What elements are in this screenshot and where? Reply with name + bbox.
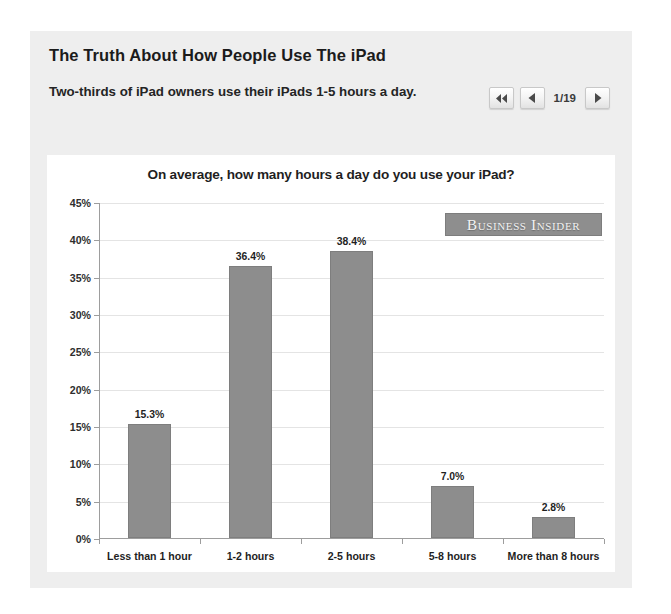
y-axis-tick <box>94 427 99 428</box>
bar <box>229 266 272 538</box>
article-subheadline: Two-thirds of iPad owners use their iPad… <box>49 83 449 101</box>
page-title: The Truth About How People Use The iPad <box>49 46 386 65</box>
y-axis-tick <box>94 464 99 465</box>
x-axis-category-label: 2-5 hours <box>328 550 376 562</box>
next-slide-button[interactable] <box>585 87 610 109</box>
y-axis-tick <box>94 278 99 279</box>
previous-slide-button[interactable] <box>520 87 545 109</box>
y-axis-label: 5% <box>76 496 91 508</box>
x-axis-category-label: 1-2 hours <box>227 550 275 562</box>
bar-chart-plot: 0%5%10%15%20%25%30%35%40%45%15.3%Less th… <box>99 203 604 539</box>
bar <box>128 424 171 538</box>
slideshow-panel: The Truth About How People Use The iPad … <box>30 31 632 588</box>
y-axis-label: 30% <box>70 309 91 321</box>
y-axis-label: 15% <box>70 421 91 433</box>
y-axis-label: 35% <box>70 272 91 284</box>
slideshow-pager: 1/19 <box>489 87 610 109</box>
y-axis-label: 0% <box>76 533 91 545</box>
y-gridline <box>100 203 604 204</box>
bar-value-label: 36.4% <box>236 251 265 262</box>
bar-value-label: 15.3% <box>135 409 164 420</box>
x-axis-category-label: Less than 1 hour <box>107 550 192 562</box>
first-slide-button[interactable] <box>489 87 514 109</box>
chevron-right-icon <box>594 93 602 103</box>
bar-value-label: 2.8% <box>542 502 566 513</box>
bar-value-label: 38.4% <box>337 236 366 247</box>
x-axis-category-label: 5-8 hours <box>429 550 477 562</box>
bar-value-label: 7.0% <box>441 471 465 482</box>
x-axis-tick <box>301 539 302 544</box>
y-axis-tick <box>94 352 99 353</box>
y-axis-label: 45% <box>70 197 91 209</box>
y-axis-tick <box>94 502 99 503</box>
double-chevron-left-icon <box>495 94 508 103</box>
y-axis-label: 10% <box>70 458 91 470</box>
chart-title: On average, how many hours a day do you … <box>47 167 615 182</box>
x-axis-tick <box>604 539 605 544</box>
bar <box>532 517 575 538</box>
chevron-left-icon <box>528 93 536 103</box>
slide-position-indicator: 1/19 <box>551 92 579 104</box>
y-axis-line <box>99 203 100 539</box>
x-axis-tick <box>503 539 504 544</box>
y-axis-tick <box>94 390 99 391</box>
y-axis-tick <box>94 315 99 316</box>
y-axis-tick <box>94 240 99 241</box>
y-axis-label: 40% <box>70 234 91 246</box>
x-axis-tick <box>402 539 403 544</box>
x-axis-tick <box>99 539 100 544</box>
y-axis-tick <box>94 203 99 204</box>
chart-card: On average, how many hours a day do you … <box>47 155 615 572</box>
bar <box>330 251 373 538</box>
x-axis-category-label: More than 8 hours <box>508 550 600 562</box>
y-axis-label: 20% <box>70 384 91 396</box>
bar <box>431 486 474 538</box>
x-axis-line <box>99 538 604 539</box>
x-axis-tick <box>200 539 201 544</box>
y-axis-label: 25% <box>70 346 91 358</box>
